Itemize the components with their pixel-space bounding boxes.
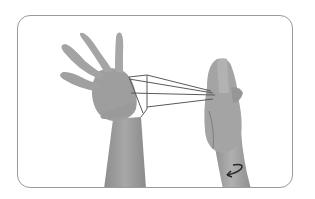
left-hand — [60, 33, 146, 189]
string-loops — [129, 75, 215, 117]
image-frame — [17, 15, 293, 188]
right-hand — [204, 58, 251, 188]
hands-string-figure-illustration — [18, 16, 293, 188]
